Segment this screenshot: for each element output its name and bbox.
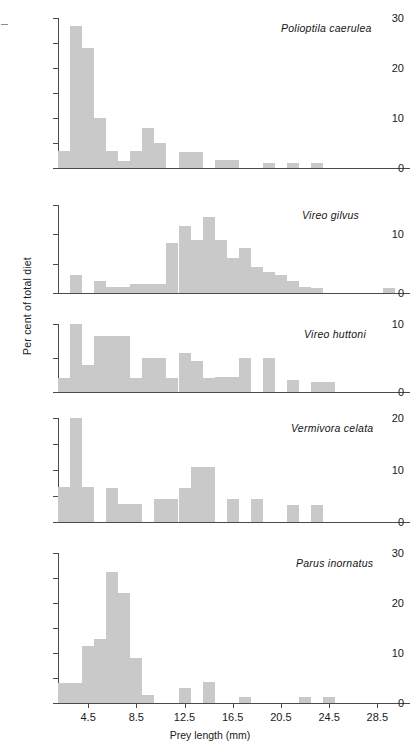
histogram-bar xyxy=(227,160,239,169)
y-tick xyxy=(53,264,58,265)
x-tick xyxy=(185,703,186,708)
histogram-bar xyxy=(58,487,70,522)
x-tick-label: 28.5 xyxy=(360,711,394,723)
histogram-bar xyxy=(191,152,203,169)
y-tick-label: 30 xyxy=(374,548,404,558)
histogram-bar xyxy=(203,682,215,703)
histogram-bar xyxy=(275,275,287,293)
histogram-bar xyxy=(166,243,178,293)
histogram-bar xyxy=(142,358,154,392)
histogram-bar xyxy=(154,358,166,392)
plot-area: 0102030 xyxy=(58,18,412,168)
histogram-bar xyxy=(142,128,154,168)
histogram-bar xyxy=(323,382,335,392)
x-axis-title: Prey length (mm) xyxy=(0,729,420,741)
x-axis-line xyxy=(58,522,410,523)
y-tick xyxy=(53,168,58,169)
y-tick-label: 0 xyxy=(374,517,404,527)
y-tick xyxy=(53,392,58,393)
histogram-bar xyxy=(179,226,191,293)
species-label: Polioptila caerulea xyxy=(281,22,372,34)
histogram-bar xyxy=(251,499,263,522)
histogram-bar xyxy=(299,287,311,293)
y-tick-label: 0 xyxy=(374,698,404,708)
x-tick-label: 24.5 xyxy=(312,711,346,723)
histogram-bar xyxy=(179,152,191,169)
x-tick xyxy=(233,703,234,708)
histogram-bar xyxy=(179,353,191,392)
histogram-bar xyxy=(118,504,130,522)
species-label: Vermivora celata xyxy=(291,422,373,434)
histogram-bar xyxy=(311,382,323,392)
histogram-bar xyxy=(130,658,142,703)
y-tick-label: 20 xyxy=(374,413,404,423)
y-axis-line xyxy=(58,553,59,703)
y-tick xyxy=(53,293,58,294)
y-tick-label: 10 xyxy=(374,113,404,123)
histogram-bar xyxy=(118,336,130,392)
histogram-bar xyxy=(70,683,82,703)
histogram-bar xyxy=(70,26,82,169)
y-tick xyxy=(53,470,58,471)
histogram-bar xyxy=(287,281,299,293)
histogram-bar xyxy=(130,284,142,293)
histogram-panel: 010Vireo huttoni xyxy=(0,324,420,418)
histogram-bar xyxy=(227,258,239,293)
histogram-bar xyxy=(82,365,94,392)
histogram-bar xyxy=(287,163,299,168)
y-tick xyxy=(53,603,58,604)
y-tick-label: 0 xyxy=(374,163,404,173)
histogram-bar xyxy=(227,499,239,522)
y-tick xyxy=(53,418,58,419)
histogram-bar xyxy=(142,695,154,704)
histogram-bar xyxy=(311,288,323,293)
histogram-bar xyxy=(58,151,70,169)
x-tick xyxy=(281,703,282,708)
histogram-bar xyxy=(166,499,178,522)
histogram-bar xyxy=(263,272,275,293)
y-tick xyxy=(53,358,58,359)
histogram-bar xyxy=(82,48,94,168)
histogram-bar xyxy=(383,288,395,293)
histogram-bar xyxy=(154,499,166,522)
histogram-bar xyxy=(191,467,203,522)
histogram-bar xyxy=(94,639,106,703)
histogram-bar xyxy=(94,118,106,168)
histogram-panel: 01020304.58.512.516.520.524.528.5Parus i… xyxy=(0,553,420,729)
y-tick xyxy=(53,703,58,704)
x-tick xyxy=(88,703,89,708)
x-tick-label: 12.5 xyxy=(168,711,202,723)
histogram-bar xyxy=(106,336,118,392)
y-tick xyxy=(53,43,58,44)
histogram-bar xyxy=(191,361,203,392)
y-tick xyxy=(53,553,58,554)
y-tick xyxy=(53,578,58,579)
figure-prey-length-histograms: Per cent of total diet 0102030Polioptila… xyxy=(0,0,420,753)
histogram-bar xyxy=(130,151,142,169)
x-axis-line xyxy=(58,392,410,393)
histogram-bar xyxy=(203,378,215,392)
histogram-bar xyxy=(154,143,166,168)
species-label: Vireo huttoni xyxy=(304,328,366,340)
histogram-bar xyxy=(82,646,94,704)
histogram-bar xyxy=(203,217,215,293)
histogram-bar xyxy=(70,418,82,522)
histogram-bar xyxy=(70,324,82,392)
y-tick-label: 10 xyxy=(374,229,404,239)
histogram-bar xyxy=(215,160,227,169)
histogram-panel: 01020Vermivora celata xyxy=(0,418,420,548)
histogram-bar xyxy=(58,683,70,703)
y-tick-label: 20 xyxy=(374,63,404,73)
histogram-bar xyxy=(311,163,323,168)
y-tick xyxy=(53,444,58,445)
species-label: Parus inornatus xyxy=(296,557,373,569)
histogram-bar xyxy=(191,240,203,293)
histogram-bar xyxy=(106,572,118,704)
histogram-bar xyxy=(94,281,106,293)
histogram-bar xyxy=(287,505,299,522)
y-tick-label: 10 xyxy=(374,648,404,658)
y-tick-label: 0 xyxy=(374,387,404,397)
histogram-bar xyxy=(287,380,299,392)
y-tick xyxy=(53,18,58,19)
histogram-bar xyxy=(263,358,275,392)
